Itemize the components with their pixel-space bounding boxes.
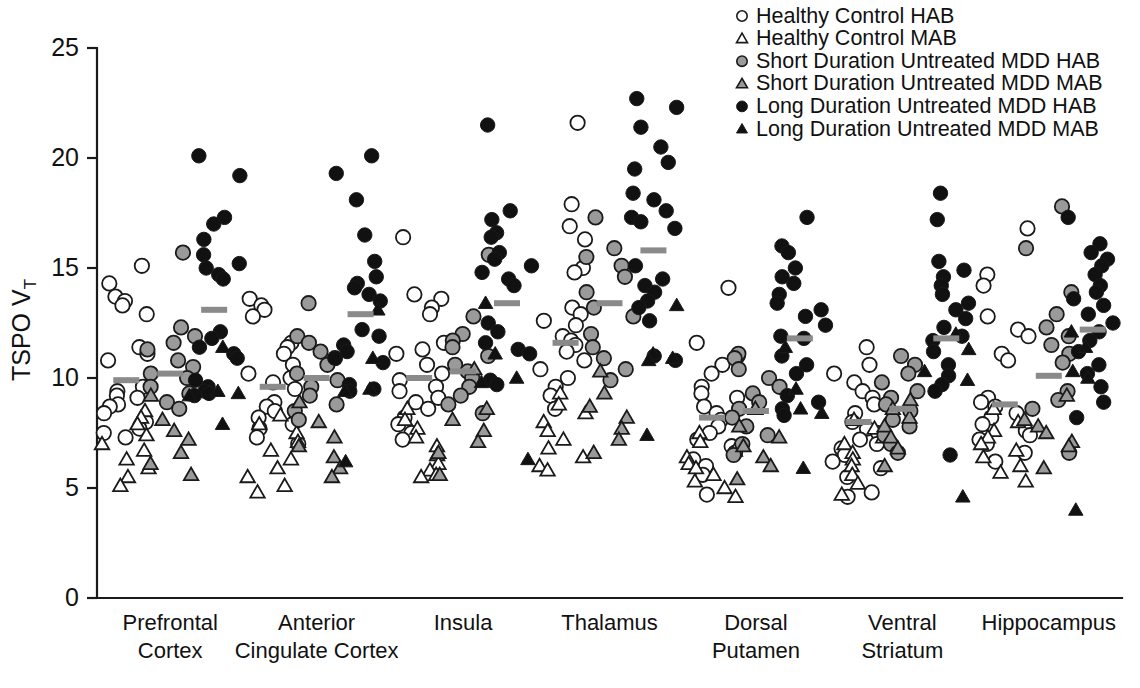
point-sd-hab — [290, 366, 304, 380]
point-ld-hab — [1089, 285, 1103, 299]
point-ld-hab — [1106, 316, 1120, 330]
point-ld-hab — [232, 256, 246, 270]
point-sd-hab — [313, 344, 327, 358]
point-ld-hab — [930, 212, 944, 226]
point-hc-mab — [556, 432, 570, 444]
point-sd-hab — [588, 210, 602, 224]
scatter-plot-svg: 0510152025 PrefrontalCortexAnteriorCingu… — [0, 0, 1140, 688]
figure-panel: 0510152025 PrefrontalCortexAnteriorCingu… — [0, 0, 1140, 688]
legend-label: Healthy Control MAB — [756, 26, 957, 50]
point-hc-hab — [395, 432, 409, 446]
y-axis-label: TSPO VT — [7, 279, 40, 381]
point-hc-hab — [690, 336, 704, 350]
point-ld-hab — [503, 204, 517, 218]
point-ld-hab — [628, 259, 642, 273]
point-ld-hab — [1096, 395, 1110, 409]
point-sd-mab — [174, 446, 188, 458]
point-hc-hab — [721, 281, 735, 295]
point-ld-hab — [368, 254, 382, 268]
point-ld-hab — [958, 311, 972, 325]
point-ld-hab — [668, 221, 682, 235]
point-ld-hab — [372, 329, 386, 343]
point-ld-hab — [484, 230, 498, 244]
point-sd-hab — [619, 362, 633, 376]
point-hc-hab — [130, 391, 144, 405]
point-sd-mab — [586, 446, 600, 458]
point-ld-mab — [793, 402, 807, 414]
x-category-label: Ventral — [868, 610, 937, 635]
point-sd-hab — [597, 351, 611, 365]
point-hc-hab — [569, 318, 583, 332]
point-ld-hab — [932, 254, 946, 268]
point-ld-hab — [800, 210, 814, 224]
point-ld-hab — [478, 336, 492, 350]
y-tick-label: 5 — [65, 473, 79, 501]
point-sd-hab — [172, 402, 186, 416]
point-hc-hab — [97, 406, 111, 420]
point-sd-hab — [894, 349, 908, 363]
point-ld-hab — [475, 265, 489, 279]
point-hc-hab — [853, 432, 867, 446]
x-category-label: Striatum — [861, 638, 943, 663]
point-sd-hab — [1025, 402, 1039, 416]
point-sd-mab — [756, 450, 770, 462]
point-hc-hab — [407, 287, 421, 301]
point-hc-hab — [101, 353, 115, 367]
point-ld-mab — [640, 428, 654, 440]
point-hc-mab — [284, 452, 298, 464]
point-ld-hab — [627, 162, 641, 176]
point-ld-mab — [796, 461, 810, 473]
legend-label: Short Duration Untreated MDD MAB — [756, 71, 1103, 95]
point-ld-hab — [659, 204, 673, 218]
point-sd-hab — [875, 375, 889, 389]
point-ld-hab — [230, 351, 244, 365]
point-ld-mab — [956, 490, 970, 502]
point-hc-hab — [974, 395, 988, 409]
y-axis-title: TSPO VT — [7, 279, 40, 381]
point-ld-mab — [521, 452, 535, 464]
point-hc-hab — [288, 382, 302, 396]
point-ld-hab — [669, 100, 683, 114]
point-sd-hab — [584, 327, 598, 341]
point-hc-hab — [827, 366, 841, 380]
point-ld-hab — [1081, 307, 1095, 321]
y-tick-label: 15 — [51, 253, 79, 281]
point-sd-mab — [181, 432, 195, 444]
point-sd-mab — [312, 415, 326, 427]
point-ld-hab — [928, 384, 942, 398]
point-sd-hab — [140, 342, 154, 356]
point-ld-hab — [781, 245, 795, 259]
point-ld-hab — [661, 155, 675, 169]
point-sd-hab — [292, 413, 306, 427]
point-ld-mab — [961, 342, 975, 354]
point-ld-hab — [634, 120, 648, 134]
point-hc-hab — [694, 386, 708, 400]
y-tick-label: 0 — [65, 583, 79, 611]
x-category-label: Cingulate Cortex — [235, 638, 399, 663]
point-sd-hab — [454, 388, 468, 402]
point-hc-hab — [859, 340, 873, 354]
y-tick-label: 20 — [51, 143, 79, 171]
x-category-label: Putamen — [712, 638, 800, 663]
point-sd-hab — [466, 309, 480, 323]
point-hc-hab — [389, 347, 403, 361]
point-hc-hab — [704, 366, 718, 380]
point-sd-hab — [1019, 241, 1033, 255]
y-tick-label: 25 — [51, 33, 79, 61]
point-ld-hab — [491, 325, 505, 339]
point-ld-hab — [329, 166, 343, 180]
point-sd-hab — [579, 285, 593, 299]
point-hc-hab — [246, 309, 260, 323]
point-sd-hab — [166, 336, 180, 350]
point-hc-hab — [241, 366, 255, 380]
point-ld-hab — [522, 347, 536, 361]
point-hc-hab — [567, 265, 581, 279]
point-ld-hab — [798, 309, 812, 323]
point-ld-hab — [1094, 380, 1108, 394]
point-ld-hab — [205, 331, 219, 345]
point-hc-hab — [980, 309, 994, 323]
point-hc-hab — [115, 298, 129, 312]
point-ld-hab — [1069, 410, 1083, 424]
point-ld-hab — [358, 228, 372, 242]
point-hc-mab — [717, 481, 731, 493]
